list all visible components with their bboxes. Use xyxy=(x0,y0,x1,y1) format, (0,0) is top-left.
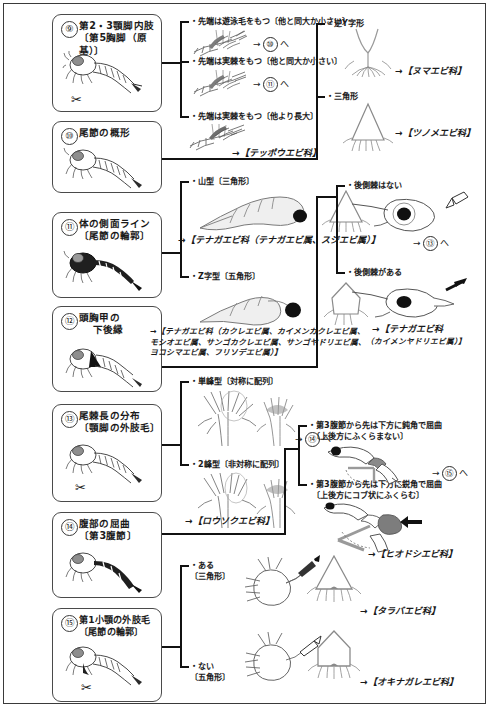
step-box-14[interactable]: ⑭ 腹部の屈曲 〔第3腹節〕 xyxy=(52,512,162,598)
connector-9-branch-2 xyxy=(180,61,189,63)
goto-arrow: → xyxy=(413,238,421,248)
carapace-no-spine-illustration xyxy=(350,192,470,234)
connector-15-branch-1 xyxy=(180,565,189,567)
connector-9-branch-1 xyxy=(180,21,189,23)
step-number-15: ⑮ xyxy=(61,615,78,632)
goto-arrow: → xyxy=(432,468,440,478)
step-number-9: ⑨ xyxy=(61,21,78,38)
branch-label-15-1: ・ある 〔三角形〕 xyxy=(190,560,230,582)
goto-15[interactable]: →⑮へ xyxy=(432,466,468,481)
abdomen-acute-illustration xyxy=(318,498,438,552)
step-box-13[interactable]: ⑬ 尾棘長の分布 〔顎脚の外肢毛〕 ✂ xyxy=(52,404,162,502)
result-tenaga-2: →【テナガエビ科（カクレエビ属、カイメンカクレエビ属、 モシオエビ属、サンゴカク… xyxy=(150,327,366,359)
step-box-15[interactable]: ⑮ 第1小顎の外肢毛 〔尾節の輪郭〕 ✂ xyxy=(52,608,162,702)
branch-label-14-1-line1: ・第3腹節から先は下方に鈍角で屈曲 xyxy=(308,420,442,430)
step-number-12: ⑫ xyxy=(61,313,78,330)
key-page: ⑨ 第2・3顎脚内肢 〔第5胸脚（原基）〕 xyxy=(0,0,489,707)
goto-11[interactable]: →⑪へ xyxy=(253,77,289,92)
goto-target-number: ⑪ xyxy=(263,77,278,92)
abdomen-zshape-illustration xyxy=(196,284,326,326)
connector-12-sub-spine xyxy=(336,186,338,274)
step-title-13-sub: 〔顎脚の外肢毛〕 xyxy=(79,422,156,434)
step-title-13: 尾棘長の分布 〔顎脚の外肢毛〕 xyxy=(79,410,156,435)
connector-10-stem xyxy=(162,158,318,160)
step-box-10[interactable]: ⑩ 尾節の概形 xyxy=(52,121,162,193)
step-title-10: 尾節の概形 xyxy=(79,127,156,139)
step-number-10: ⑩ xyxy=(61,128,78,145)
connector-15-spine xyxy=(180,566,182,668)
scissors-icon-9: ✂ xyxy=(71,93,82,106)
branch-label-15-2-line2: 〔五角形〕 xyxy=(190,672,230,683)
connector-13-spine xyxy=(180,382,182,466)
branch-label-12-2: ・後側棘がある xyxy=(346,267,402,278)
carapace-with-spine-illustration xyxy=(350,280,470,324)
telson-triangle-15-illustration xyxy=(304,553,364,607)
connector-10-branch-2 xyxy=(316,96,325,98)
step-title-14-sub: 〔第3腹節〕 xyxy=(79,530,156,542)
branch-label-14-1: ・第3腹節から先は下方に鈍角で屈曲 〔上後方にふくらまない〕 xyxy=(308,420,442,442)
shrimp-illustration-13 xyxy=(63,441,155,483)
step-title-15: 第1小顎の外肢毛 〔尾節の輪郭〕 xyxy=(79,614,156,639)
result-tenaga-2-line1: →【テナガエビ科（カクレエビ属、カイメンカクレエビ属、 xyxy=(150,327,366,338)
branch-label-15-1-line1: ・ある xyxy=(190,560,214,570)
goto-suffix: へ xyxy=(459,468,468,478)
step-box-12[interactable]: ⑫ 頭胸甲の 下後縁 xyxy=(52,306,162,392)
goto-suffix: へ xyxy=(280,79,289,89)
connector-12-branch-2 xyxy=(336,272,345,274)
connector-9-branch-3 xyxy=(180,116,189,118)
result-numa: →【ヌマエビ科】 xyxy=(395,66,466,78)
result-taraba: →【タラバエビ科】 xyxy=(360,606,440,618)
telson-inverted-y-illustration xyxy=(338,27,398,79)
connector-15-branch-2 xyxy=(180,666,189,668)
connector-13-stem xyxy=(162,444,180,446)
connector-10-spine xyxy=(316,24,318,160)
goto-arrow: → xyxy=(253,79,261,89)
connector-10-branch-1 xyxy=(316,23,325,25)
telson-triangle-illustration xyxy=(338,100,398,152)
scissors-icon-15: ✂ xyxy=(81,681,92,694)
goto-10[interactable]: →⑩へ xyxy=(253,37,289,52)
connector-13-branch-2 xyxy=(180,464,189,466)
setae-swimming-illustration xyxy=(207,31,247,51)
step-box-9[interactable]: ⑨ 第2・3顎脚内肢 〔第5胸脚（原基）〕 xyxy=(52,14,162,112)
step-number-13: ⑬ xyxy=(61,411,78,428)
goto-arrow: → xyxy=(253,39,261,49)
shrimp-illustration-9 xyxy=(63,51,155,93)
step-title-14-main: 腹部の屈曲 xyxy=(79,518,130,529)
result-tsunome: →【ツノメエビ科】 xyxy=(395,128,475,140)
shrimp-illustration-11 xyxy=(63,249,155,291)
goto-suffix: へ xyxy=(280,39,289,49)
step-title-11: 体の側面ライン 〔尾節の輪郭〕 xyxy=(79,218,156,243)
connector-12-spine xyxy=(316,196,318,368)
connector-14-sub-spine xyxy=(298,426,300,486)
result-tenaga-1: →【テナガエビ科（テナガエビ属、スジエビ属）】 xyxy=(178,235,380,247)
telson-pentagon-15-illustration xyxy=(304,628,364,684)
connector-11-branch-1 xyxy=(180,181,189,183)
step-title-11-main: 体の側面ライン xyxy=(79,218,150,229)
connector-12-branch-1 xyxy=(336,185,345,187)
branch-label-15-2: ・ない 〔五角形〕 xyxy=(190,661,230,683)
branch-label-15-2-line1: ・ない xyxy=(190,661,214,671)
step-title-14: 腹部の屈曲 〔第3腹節〕 xyxy=(79,518,156,543)
setae-spine-illustration-2 xyxy=(207,123,247,143)
abdomen-obtuse-illustration xyxy=(320,440,430,486)
shrimp-illustration-10 xyxy=(63,146,155,190)
step-title-15-sub: 〔尾節の輪郭〕 xyxy=(79,626,156,638)
connector-9-spine xyxy=(180,22,182,118)
connector-12-top-arm xyxy=(316,196,338,198)
step-box-11[interactable]: ⑪ 体の側面ライン 〔尾節の輪郭〕 xyxy=(52,212,162,298)
connector-12-stem xyxy=(162,366,318,368)
abdomen-ridge-illustration xyxy=(196,190,326,232)
connector-14-branch-1 xyxy=(298,425,307,427)
connector-9-stem xyxy=(162,62,180,64)
result-tenaga-3-line2: （カイメンヤドリエビ属）】 xyxy=(366,336,466,348)
scissors-icon-13: ✂ xyxy=(75,481,86,494)
branch-label-11-2: ・Z字型〔五角形〕 xyxy=(190,271,260,282)
branch-label-9-3: ・先端は実棘をもつ〔他より長大〕 xyxy=(190,111,318,122)
shrimp-illustration-15 xyxy=(63,643,155,683)
goto-13[interactable]: →⑬へ xyxy=(413,236,449,251)
step-number-11: ⑪ xyxy=(61,219,78,236)
branch-label-13-2: ・2峰型〔非対称に配列〕 xyxy=(190,459,284,470)
result-tenaga-3-line1: →【テナガエビ科 xyxy=(372,324,443,336)
result-okinagare: →【オキナガレエビ科】 xyxy=(360,677,458,689)
